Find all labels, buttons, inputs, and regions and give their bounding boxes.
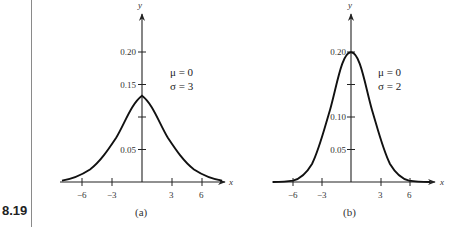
x-axis-label: x [228,177,233,187]
param-mu: μ = 0 [378,66,402,78]
y-tick-label: 0.20 [330,47,346,57]
x-tick-label: 6 [199,190,204,200]
y-axis-label: y [137,0,142,10]
param-mu: μ = 0 [170,66,194,78]
x-tick-label: 6 [407,190,412,200]
panel-caption: (a) [135,206,148,219]
x-tick-label: −3 [107,190,117,200]
x-tick-label: 3 [169,190,174,200]
y-tick-label: 0.05 [120,145,136,155]
panel-caption: (b) [343,206,356,219]
panel-a: x y −6 −3 3 6 0.20 0.15 0.05 μ = 0 σ = 3 [60,0,233,219]
x-tick-label: −6 [288,190,298,200]
param-sigma: σ = 3 [170,80,194,92]
y-tick-label: 0.20 [120,47,136,57]
y-tick-label: 0.10 [330,112,346,122]
figure-canvas: x y −6 −3 3 6 0.20 0.15 0.05 μ = 0 σ = 3 [0,0,452,227]
y-tick-label: 0.15 [120,80,136,90]
y-tick-label: 0.05 [330,145,346,155]
x-tick-label: −6 [77,190,87,200]
y-axis-label: y [347,0,352,10]
x-tick-label: −3 [317,190,327,200]
x-axis-label: x [439,177,444,187]
panel-b: x y −6 −3 3 6 0.20 0.10 0.05 μ = 0 σ = 2… [272,0,444,219]
param-sigma: σ = 2 [378,80,401,92]
x-tick-label: 3 [378,190,383,200]
